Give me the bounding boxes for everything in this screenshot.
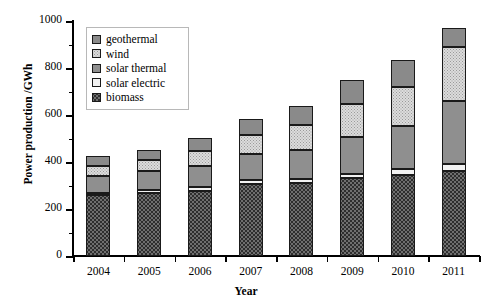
- x-tick: [327, 256, 329, 262]
- bar-segment-biomass-2010[interactable]: [391, 175, 415, 256]
- x-tick: [378, 256, 380, 262]
- bar-segment-wind-2004[interactable]: [86, 166, 110, 176]
- bar-segment-solar-thermal-2010[interactable]: [391, 126, 415, 169]
- x-tick-label-2011: 2011: [424, 265, 484, 277]
- y-tick-major: [66, 115, 73, 117]
- bar-segment-wind-2005[interactable]: [137, 160, 161, 172]
- x-axis-title: Year: [0, 285, 492, 297]
- bar-segment-solar-thermal-2011[interactable]: [442, 101, 466, 164]
- bar-2010[interactable]: [391, 60, 415, 256]
- bar-segment-solar-electric-2009[interactable]: [340, 174, 364, 179]
- bar-segment-geothermal-2006[interactable]: [188, 138, 212, 151]
- bar-segment-biomass-2011[interactable]: [442, 171, 466, 256]
- bar-segment-biomass-2008[interactable]: [289, 183, 313, 256]
- bar-segment-wind-2008[interactable]: [289, 125, 313, 150]
- bar-segment-solar-electric-2010[interactable]: [391, 169, 415, 175]
- bar-2005[interactable]: [137, 150, 161, 256]
- bar-segment-wind-2009[interactable]: [340, 104, 364, 137]
- x-tick: [428, 256, 430, 262]
- legend-item-solar-electric: solar electric: [92, 76, 183, 91]
- legend-item-wind: wind: [92, 47, 183, 62]
- y-tick-major: [66, 256, 73, 258]
- legend-label-geothermal: geothermal: [106, 33, 158, 45]
- bar-segment-biomass-2006[interactable]: [188, 191, 212, 256]
- bar-segment-geothermal-2008[interactable]: [289, 106, 313, 125]
- legend-item-biomass: biomass: [92, 90, 183, 105]
- legend-swatch-geothermal: [92, 35, 101, 44]
- x-tick: [73, 256, 75, 262]
- bar-segment-biomass-2005[interactable]: [137, 193, 161, 256]
- legend-swatch-wind: [92, 49, 101, 58]
- legend-label-solar-thermal: solar thermal: [106, 62, 166, 74]
- bar-2009[interactable]: [340, 80, 364, 256]
- bar-segment-solar-electric-2005[interactable]: [137, 190, 161, 193]
- bar-segment-wind-2007[interactable]: [239, 135, 263, 154]
- x-tick: [276, 256, 278, 262]
- bar-segment-biomass-2009[interactable]: [340, 178, 364, 256]
- bar-segment-wind-2011[interactable]: [442, 47, 466, 101]
- bar-segment-solar-thermal-2008[interactable]: [289, 150, 313, 179]
- y-axis-title: Power production /GWh: [22, 14, 34, 234]
- bar-segment-solar-electric-2004[interactable]: [86, 193, 110, 196]
- bar-segment-solar-electric-2007[interactable]: [239, 180, 263, 184]
- bar-segment-solar-electric-2011[interactable]: [442, 164, 466, 171]
- legend-swatch-solar-electric: [92, 78, 101, 87]
- bar-2006[interactable]: [188, 138, 212, 256]
- y-tick-major: [66, 21, 73, 23]
- y-tick-major: [66, 162, 73, 164]
- bar-segment-wind-2006[interactable]: [188, 151, 212, 166]
- legend-label-biomass: biomass: [106, 91, 144, 103]
- legend-swatch-biomass: [92, 93, 101, 102]
- bar-2008[interactable]: [289, 106, 313, 256]
- bar-segment-biomass-2004[interactable]: [86, 195, 110, 256]
- bar-segment-solar-thermal-2009[interactable]: [340, 137, 364, 173]
- bar-segment-solar-thermal-2007[interactable]: [239, 154, 263, 180]
- legend-item-geothermal: geothermal: [92, 32, 183, 47]
- bar-segment-solar-thermal-2004[interactable]: [86, 176, 110, 193]
- legend-label-wind: wind: [106, 48, 129, 60]
- bar-segment-geothermal-2009[interactable]: [340, 80, 364, 105]
- x-tick: [175, 256, 177, 262]
- bar-2007[interactable]: [239, 119, 263, 256]
- x-tick: [124, 256, 126, 262]
- bar-segment-solar-electric-2006[interactable]: [188, 187, 212, 191]
- y-tick-major: [66, 209, 73, 211]
- bar-segment-geothermal-2011[interactable]: [442, 28, 466, 47]
- bar-segment-biomass-2007[interactable]: [239, 184, 263, 256]
- bar-segment-geothermal-2004[interactable]: [86, 156, 110, 166]
- y-tick-label: 0: [18, 248, 62, 260]
- bar-segment-wind-2010[interactable]: [391, 87, 415, 126]
- bar-segment-geothermal-2007[interactable]: [239, 119, 263, 135]
- bar-2004[interactable]: [86, 156, 110, 256]
- bar-segment-geothermal-2010[interactable]: [391, 60, 415, 87]
- chart-legend: geothermal wind solar thermal solar elec…: [86, 27, 189, 110]
- y-tick-major: [66, 68, 73, 70]
- x-tick: [225, 256, 227, 262]
- bar-segment-geothermal-2005[interactable]: [137, 150, 161, 159]
- legend-item-solar-thermal: solar thermal: [92, 61, 183, 76]
- bar-segment-solar-thermal-2006[interactable]: [188, 166, 212, 187]
- chart-container: 02004006008001000 2004200520062007200820…: [0, 0, 492, 308]
- bar-2011[interactable]: [442, 28, 466, 256]
- bar-segment-solar-electric-2008[interactable]: [289, 179, 313, 183]
- legend-swatch-solar-thermal: [92, 64, 101, 73]
- x-tick: [479, 256, 481, 262]
- legend-label-solar-electric: solar electric: [106, 77, 165, 89]
- bar-segment-solar-thermal-2005[interactable]: [137, 171, 161, 189]
